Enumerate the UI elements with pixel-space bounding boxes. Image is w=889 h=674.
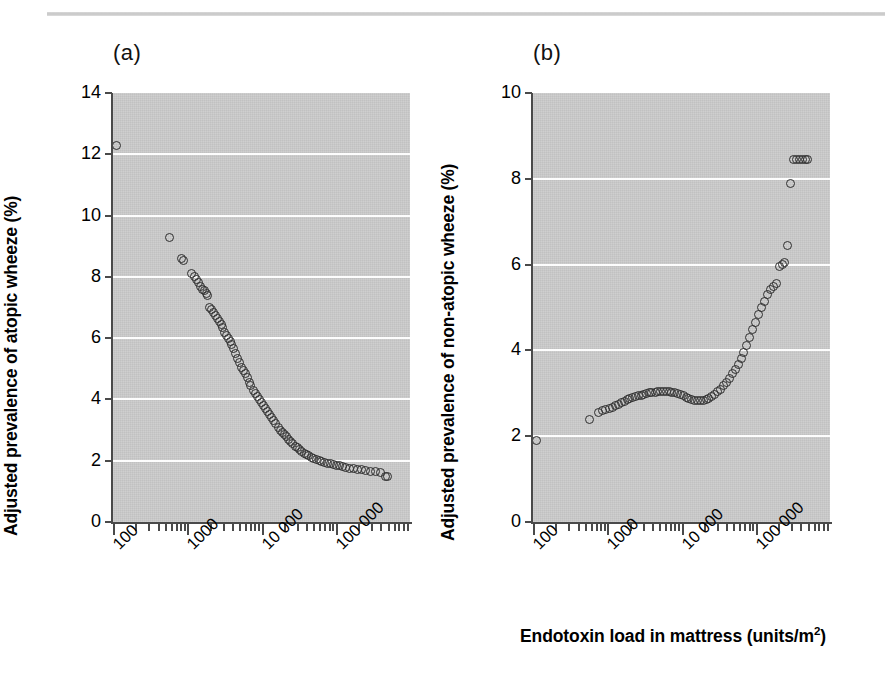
y-axis-tick	[105, 398, 112, 400]
y-axis-tick	[525, 92, 532, 94]
x-axis-minor-tick	[752, 524, 754, 531]
x-axis-minor-tick	[171, 524, 173, 531]
x-axis-minor-tick	[184, 524, 186, 531]
y-axis-tick	[525, 435, 532, 437]
x-axis-minor-tick	[324, 524, 326, 531]
x-axis-minor-tick	[180, 524, 182, 531]
y-axis-tick-label: 4	[67, 388, 101, 409]
y-axis-tick-label: 6	[67, 327, 101, 348]
y-axis-tick-label: 2	[67, 450, 101, 471]
y-axis-tick-label: 8	[67, 266, 101, 287]
x-axis-minor-tick	[749, 524, 751, 531]
x-axis-minor-tick	[823, 524, 825, 531]
x-axis-minor-tick	[250, 524, 252, 531]
gridline	[113, 153, 410, 155]
x-axis-minor-tick	[674, 524, 676, 531]
y-axis-tick	[525, 264, 532, 266]
y-axis-tick	[105, 460, 112, 462]
x-axis-minor-tick	[600, 524, 602, 531]
x-axis-minor-tick	[585, 524, 587, 531]
y-axis-tick-label: 6	[487, 254, 521, 275]
x-axis-minor-tick	[800, 524, 802, 531]
data-point	[786, 179, 795, 188]
x-axis-minor-tick	[380, 524, 382, 531]
xaxis-caption: Endotoxin load in mattress (units/m2)	[520, 625, 826, 647]
x-axis-minor-tick	[158, 524, 160, 531]
xaxis-caption-text: Endotoxin load in mattress (units/m	[520, 626, 814, 646]
y-axis-tick-label: 12	[67, 143, 101, 164]
x-axis-minor-tick	[403, 524, 405, 531]
panel-b: (b) Adjusted prevalence of non-atopic wh…	[445, 0, 889, 674]
x-axis-minor-tick	[254, 524, 256, 531]
data-point	[751, 318, 760, 327]
x-axis-minor-tick	[329, 524, 331, 531]
x-axis-minor-tick	[232, 524, 234, 531]
x-axis-minor-tick	[827, 524, 829, 531]
y-axis-tick-label: 0	[487, 511, 521, 532]
x-axis-minor-tick	[578, 524, 580, 531]
x-axis-minor-tick	[596, 524, 598, 531]
x-axis-minor-tick	[568, 524, 570, 531]
x-axis-minor-tick	[591, 524, 593, 531]
y-axis-tick-label: 10	[67, 205, 101, 226]
y-axis-tick	[105, 337, 112, 339]
x-axis-minor-tick	[165, 524, 167, 531]
panel-a-ylabel: Adjusted prevalence of atopic wheeze (%)	[1, 196, 22, 536]
y-axis-tick-label: 8	[487, 168, 521, 189]
x-axis-minor-tick	[407, 524, 409, 531]
x-axis-minor-tick	[739, 524, 741, 531]
y-axis-tick	[105, 153, 112, 155]
data-point	[179, 256, 188, 265]
panel-a-plot-background	[113, 93, 410, 522]
data-point	[165, 233, 174, 242]
y-axis-tick	[105, 92, 112, 94]
gridline	[113, 337, 410, 339]
x-axis-minor-tick	[394, 524, 396, 531]
data-point	[772, 279, 781, 288]
x-axis-minor-tick	[245, 524, 247, 531]
x-axis-minor-tick	[744, 524, 746, 531]
x-axis-minor-tick	[604, 524, 606, 531]
data-point	[585, 415, 594, 424]
y-axis-tick	[105, 276, 112, 278]
x-axis-minor-tick	[814, 524, 816, 531]
x-axis-minor-tick	[319, 524, 321, 531]
gridline	[113, 460, 410, 462]
x-axis-minor-tick	[306, 524, 308, 531]
x-axis-minor-tick	[388, 524, 390, 531]
x-axis-minor-tick	[239, 524, 241, 531]
y-axis-tick	[525, 178, 532, 180]
x-axis-minor-tick	[818, 524, 820, 531]
x-axis-minor-tick	[652, 524, 654, 531]
x-axis-minor-tick	[398, 524, 400, 531]
x-axis-minor-tick	[258, 524, 260, 531]
y-axis-tick-label: 2	[487, 425, 521, 446]
xaxis-caption-tail: )	[820, 626, 826, 646]
y-axis-line	[531, 93, 533, 524]
x-axis-minor-tick	[726, 524, 728, 531]
panel-b-plot-background	[533, 93, 830, 522]
y-axis-tick-label: 14	[67, 82, 101, 103]
x-axis-minor-tick	[313, 524, 315, 531]
panel-b-plot-area	[533, 93, 830, 522]
x-axis-minor-tick	[659, 524, 661, 531]
x-axis-minor-tick	[678, 524, 680, 531]
x-axis-minor-tick	[223, 524, 225, 531]
y-axis-tick	[525, 521, 532, 523]
x-axis-minor-tick	[332, 524, 334, 531]
panel-b-letter: (b)	[533, 40, 561, 66]
figure-container: (a) Adjusted prevalence of atopic wheeze…	[0, 0, 889, 674]
x-axis-minor-tick	[808, 524, 810, 531]
y-axis-tick-label: 10	[487, 82, 521, 103]
gridline	[113, 276, 410, 278]
gridline	[533, 435, 830, 437]
y-axis-tick	[525, 349, 532, 351]
x-axis-minor-tick	[176, 524, 178, 531]
gridline	[533, 178, 830, 180]
gridline	[533, 349, 830, 351]
panel-b-ylabel: Adjusted prevalence of non-atopic wheeze…	[438, 164, 459, 541]
panel-a-plot-area	[113, 93, 410, 522]
panel-a-letter: (a)	[113, 40, 141, 66]
panel-a: (a) Adjusted prevalence of atopic wheeze…	[0, 0, 445, 674]
x-axis-minor-tick	[665, 524, 667, 531]
